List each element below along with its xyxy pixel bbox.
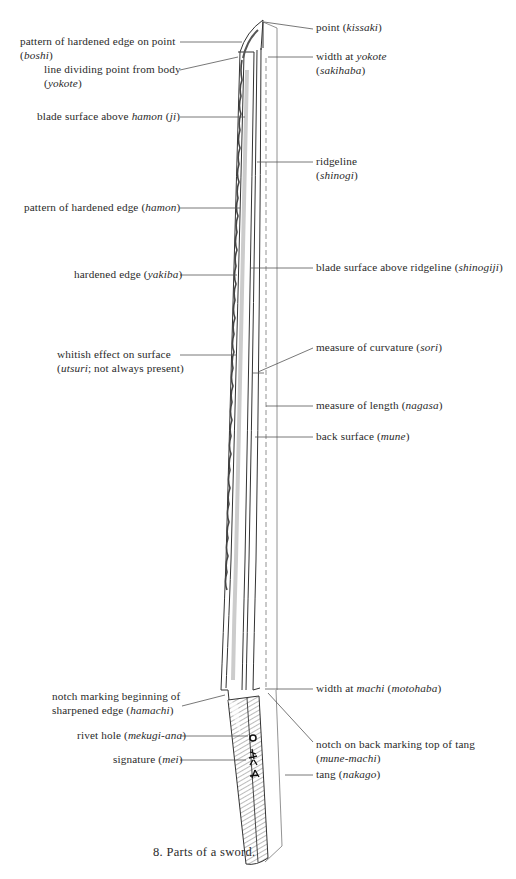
term-utsuri: utsuri <box>61 362 88 374</box>
label-ji: blade surface above hamon (ji) <box>37 110 180 124</box>
mune-machi-notch <box>253 688 260 690</box>
figure-caption: 8. Parts of a sword. <box>153 845 256 860</box>
label-sori: measure of curvature (sori) <box>316 341 442 355</box>
term-kissaki: kissaki <box>347 21 379 33</box>
label-text: pattern of hardened edge on point <box>20 35 176 47</box>
label-text: ridgeline <box>316 155 357 167</box>
term-nakago: nakago <box>343 768 377 780</box>
label-mei: signature (mei) <box>113 753 183 767</box>
term-ji: ji <box>170 110 177 122</box>
label-text: line dividing point from body <box>44 63 181 75</box>
label-text: notch marking beginning of <box>52 690 181 702</box>
term-hamachi: hamachi <box>130 704 170 716</box>
rivet-hole <box>250 735 256 741</box>
label-hamon: pattern of hardened edge (hamon) <box>24 201 180 215</box>
label-text: hardened edge <box>74 268 141 280</box>
term-mune-machi: mune-machi <box>320 752 377 764</box>
term-mei: mei <box>162 753 179 765</box>
term-shinogiji: shinogiji <box>459 261 500 273</box>
label-text: ( <box>163 110 170 122</box>
term-machi-inline: machi <box>357 682 385 694</box>
label-mekugi-ana: rivet hole (mekugi-ana) <box>77 729 186 743</box>
label-text: width at <box>316 682 357 694</box>
label-mune: back surface (mune) <box>316 430 410 444</box>
term-nagasa: nagasa <box>406 399 439 411</box>
utsuri-shading <box>233 70 247 680</box>
label-nakago: tang (nakago) <box>316 768 380 782</box>
label-text: back surface <box>316 430 374 442</box>
term-mune: mune <box>381 430 406 442</box>
label-text: measure of length <box>316 399 399 411</box>
term-motohaba: motohaba <box>391 682 437 694</box>
term-boshi: boshi <box>24 49 49 61</box>
label-text: blade surface above ridgeline <box>316 261 452 273</box>
label-sakihaba: width at yokote (sakihaba) <box>316 50 387 77</box>
label-boshi: pattern of hardened edge on point (boshi… <box>20 35 176 62</box>
term-yokote-inline: yokote <box>357 50 387 62</box>
label-nagasa: measure of length (nagasa) <box>316 399 443 413</box>
boshi-pattern <box>243 30 258 58</box>
label-text: signature <box>113 753 155 765</box>
term-hamon-inline: hamon <box>132 110 163 122</box>
term-mekugi-ana: mekugi-ana <box>128 729 182 741</box>
term-hamon: hamon <box>145 201 176 213</box>
label-text: rivet hole <box>77 729 121 741</box>
label-shinogi: ridgeline (shinogi) <box>316 155 358 182</box>
label-shinogiji: blade surface above ridgeline (shinogiji… <box>316 261 503 275</box>
label-text: sharpened edge <box>52 704 123 716</box>
term-yokote: yokote <box>48 77 78 89</box>
measurement-frame <box>263 22 282 862</box>
label-motohaba: width at machi (motohaba) <box>316 682 441 696</box>
label-text: tang <box>316 768 336 780</box>
label-text: point <box>316 21 340 33</box>
term-yakiba: yakiba <box>148 268 179 280</box>
label-utsuri: whitish effect on surface (utsuri; not a… <box>57 348 184 375</box>
label-hamachi: notch marking beginning of sharpened edg… <box>52 690 181 717</box>
label-text: ; not always present) <box>88 362 184 374</box>
label-text: notch on back marking top of tang <box>316 738 475 750</box>
label-yokote: line dividing point from body (yokote) <box>44 63 181 90</box>
term-sakihaba: sakihaba <box>320 64 362 76</box>
label-text: pattern of hardened edge <box>24 201 139 213</box>
label-mune-machi: notch on back marking top of tang (mune-… <box>316 738 475 765</box>
label-text: whitish effect on surface <box>57 348 171 360</box>
label-kissaki: point (kissaki) <box>316 21 382 35</box>
label-yakiba: hardened edge (yakiba) <box>74 268 182 282</box>
term-shinogi: shinogi <box>320 169 354 181</box>
term-sori: sori <box>420 341 438 353</box>
tang <box>228 696 268 864</box>
label-text: blade surface above <box>37 110 132 122</box>
label-text: measure of curvature <box>316 341 413 353</box>
label-text: width at <box>316 50 357 62</box>
